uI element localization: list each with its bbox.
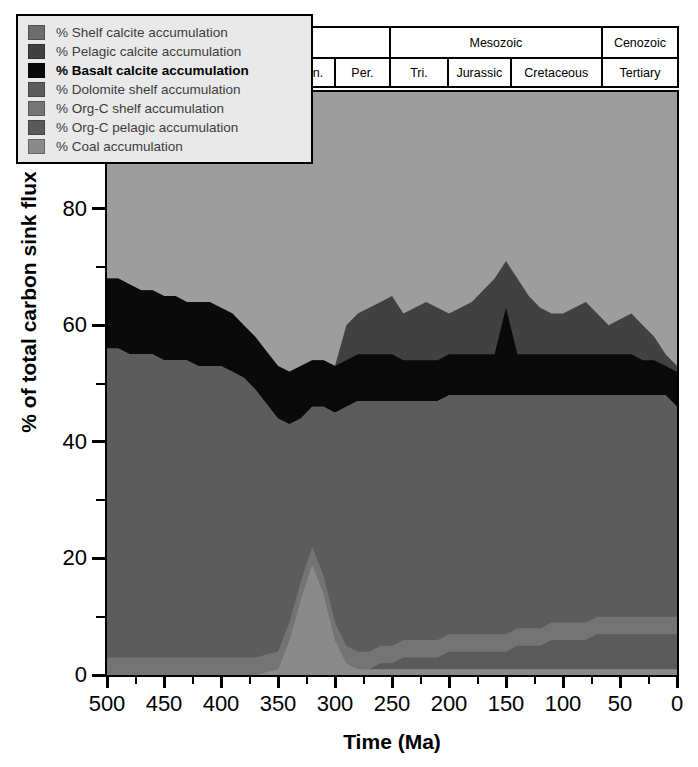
legend-item-pelagic-calcite: % Pelagic calcite accumulation bbox=[28, 42, 303, 61]
y-axis-tick-major bbox=[92, 557, 105, 560]
y-axis: 020406080100 bbox=[0, 90, 105, 677]
x-axis-tick-major bbox=[106, 677, 109, 688]
timescale-cell-label: Mesozoic bbox=[468, 36, 523, 50]
y-axis-tick-minor bbox=[96, 383, 105, 385]
x-axis-tick-major bbox=[277, 677, 280, 688]
x-axis-tick-major bbox=[334, 677, 337, 688]
x-axis-tick-minor bbox=[477, 677, 479, 684]
x-axis-tick-label: 300 bbox=[317, 691, 354, 717]
y-axis-tick-label: 80 bbox=[63, 196, 87, 222]
y-axis-tick-major bbox=[92, 440, 105, 443]
y-axis-tick-minor bbox=[96, 266, 105, 268]
x-axis-tick-major bbox=[505, 677, 508, 688]
legend-swatch-icon bbox=[28, 120, 45, 135]
x-axis-tick-major bbox=[676, 677, 679, 688]
x-axis-title: Time (Ma) bbox=[105, 730, 679, 754]
y-axis-tick-major bbox=[92, 324, 105, 327]
x-axis-tick-label: 250 bbox=[374, 691, 411, 717]
y-axis-tick-minor bbox=[96, 616, 105, 618]
timescale-cell-label: Per. bbox=[350, 66, 374, 80]
legend-item-label: % Pelagic calcite accumulation bbox=[56, 45, 241, 59]
plot-area bbox=[105, 90, 679, 677]
x-axis-tick-minor bbox=[306, 677, 308, 684]
y-axis-tick-label: 20 bbox=[63, 545, 87, 571]
x-axis-tick-major bbox=[619, 677, 622, 688]
timescale-cell-mesozoic: Mesozoic bbox=[391, 28, 603, 57]
x-axis: 500450400350300250200150100500 bbox=[105, 677, 679, 737]
x-axis-tick-minor bbox=[363, 677, 365, 684]
figure-carbon-sink-flux: PaleozoicMesozoicCenozoic Ordo.Sil.Dev.C… bbox=[0, 0, 698, 767]
x-axis-tick-label: 500 bbox=[89, 691, 126, 717]
x-axis-tick-minor bbox=[135, 677, 137, 684]
legend-item-orgc-shelf: % Org-C shelf accumulation bbox=[28, 99, 303, 118]
timescale-cell-label: Jurassic bbox=[455, 66, 503, 80]
y-axis-tick-label: 60 bbox=[63, 312, 87, 338]
stacked-area-chart bbox=[107, 92, 677, 675]
x-axis-tick-major bbox=[163, 677, 166, 688]
x-axis-tick-label: 400 bbox=[203, 691, 240, 717]
x-axis-tick-minor bbox=[249, 677, 251, 684]
legend-item-label: % Org-C pelagic accumulation bbox=[56, 121, 238, 135]
legend-item-dolomite-shelf: % Dolomite shelf accumulation bbox=[28, 80, 303, 99]
timescale-cell-label: Tertiary bbox=[618, 66, 661, 80]
y-axis-tick-minor bbox=[96, 499, 105, 501]
legend-item-label: % Org-C shelf accumulation bbox=[56, 102, 224, 116]
legend-item-shelf-calcite: % Shelf calcite accumulation bbox=[28, 23, 303, 42]
x-axis-tick-label: 350 bbox=[260, 691, 297, 717]
legend-item-label: % Coal accumulation bbox=[56, 140, 183, 154]
legend-item-orgc-pelagic: % Org-C pelagic accumulation bbox=[28, 118, 303, 137]
legend-item-label: % Basalt calcite accumulation bbox=[56, 64, 249, 78]
x-axis-tick-major bbox=[220, 677, 223, 688]
legend-swatch-icon bbox=[28, 63, 45, 78]
timescale-cell-tri: Tri. bbox=[391, 59, 449, 86]
timescale-cell-per: Per. bbox=[336, 59, 391, 86]
timescale-cell-label: Cretaceous bbox=[523, 66, 589, 80]
x-axis-tick-label: 200 bbox=[431, 691, 468, 717]
x-axis-tick-label: 0 bbox=[671, 691, 683, 717]
legend-item-basalt-calcite: % Basalt calcite accumulation bbox=[28, 61, 303, 80]
x-axis-tick-major bbox=[391, 677, 394, 688]
x-axis-tick-major bbox=[562, 677, 565, 688]
y-axis-tick-major bbox=[92, 674, 105, 677]
legend-swatch-icon bbox=[28, 139, 45, 154]
x-axis-tick-label: 450 bbox=[146, 691, 183, 717]
timescale-cell-label: Cenozoic bbox=[613, 36, 667, 50]
legend-swatch-icon bbox=[28, 101, 45, 116]
legend-item-label: % Shelf calcite accumulation bbox=[56, 26, 228, 40]
x-axis-tick-minor bbox=[192, 677, 194, 684]
legend-swatch-icon bbox=[28, 44, 45, 59]
timescale-cell-cretaceous: Cretaceous bbox=[512, 59, 603, 86]
x-axis-tick-minor bbox=[648, 677, 650, 684]
x-axis-tick-label: 50 bbox=[608, 691, 632, 717]
timescale-cell-label: Tri. bbox=[409, 66, 429, 80]
timescale-cell-tertiary: Tertiary bbox=[603, 59, 677, 86]
y-axis-tick-major bbox=[92, 207, 105, 210]
timescale-cell-jurassic: Jurassic bbox=[449, 59, 512, 86]
x-axis-tick-major bbox=[448, 677, 451, 688]
y-axis-tick-label: 40 bbox=[63, 429, 87, 455]
legend-swatch-icon bbox=[28, 25, 45, 40]
x-axis-tick-minor bbox=[591, 677, 593, 684]
x-axis-tick-label: 150 bbox=[488, 691, 525, 717]
timescale-cell-cenozoic: Cenozoic bbox=[603, 28, 677, 57]
legend-item-label: % Dolomite shelf accumulation bbox=[56, 83, 241, 97]
x-axis-tick-label: 100 bbox=[545, 691, 582, 717]
x-axis-tick-minor bbox=[534, 677, 536, 684]
y-axis-tick-label: 0 bbox=[75, 662, 87, 688]
legend-item-coal: % Coal accumulation bbox=[28, 137, 303, 156]
x-axis-tick-minor bbox=[420, 677, 422, 684]
chart-legend: % Shelf calcite accumulation% Pelagic ca… bbox=[16, 14, 313, 164]
legend-swatch-icon bbox=[28, 82, 45, 97]
